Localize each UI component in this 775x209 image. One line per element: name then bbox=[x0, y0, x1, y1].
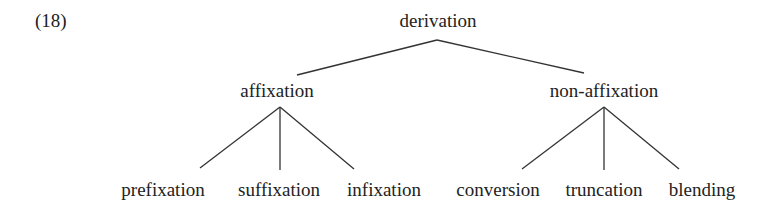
node-affixation: affixation bbox=[240, 81, 314, 100]
edge-non-affixation-conversion bbox=[522, 107, 604, 169]
node-prefixation: prefixation bbox=[121, 180, 204, 199]
edge-derivation-non-affixation bbox=[437, 40, 584, 73]
example-number: (18) bbox=[35, 11, 67, 30]
node-non-affixation: non-affixation bbox=[550, 81, 658, 100]
edge-affixation-infixation bbox=[280, 107, 354, 169]
node-suffixation: suffixation bbox=[238, 180, 320, 199]
node-derivation: derivation bbox=[399, 11, 476, 30]
node-truncation: truncation bbox=[565, 180, 642, 199]
node-infixation: infixation bbox=[347, 180, 421, 199]
node-blending: blending bbox=[669, 180, 736, 199]
edge-affixation-prefixation bbox=[200, 107, 280, 168]
node-conversion: conversion bbox=[456, 180, 539, 199]
tree-edges bbox=[0, 0, 775, 209]
edge-non-affixation-blending bbox=[604, 107, 679, 169]
edge-derivation-affixation bbox=[297, 40, 437, 75]
